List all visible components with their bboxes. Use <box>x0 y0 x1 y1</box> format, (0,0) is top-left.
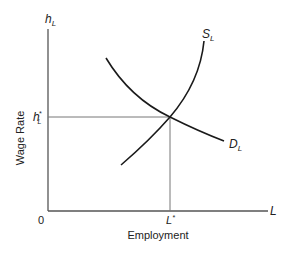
supply-curve <box>121 41 204 165</box>
supply-curve-label: SL <box>202 27 214 43</box>
labor-market-diagram: hL Wage Rate h*L 0 L* L Employment SL DL <box>0 0 288 253</box>
equilibrium-wage-label: h*L <box>33 110 42 125</box>
y-axis-label: Wage Rate <box>14 111 26 166</box>
x-axis-symbol: L <box>270 204 277 218</box>
demand-curve-label: DL <box>229 137 242 153</box>
y-axis-symbol: hL <box>45 12 56 28</box>
equilibrium-employment-label: L* <box>166 214 175 226</box>
x-axis-label: Employment <box>127 229 188 241</box>
demand-curve <box>106 58 224 141</box>
origin-label: 0 <box>38 214 44 226</box>
